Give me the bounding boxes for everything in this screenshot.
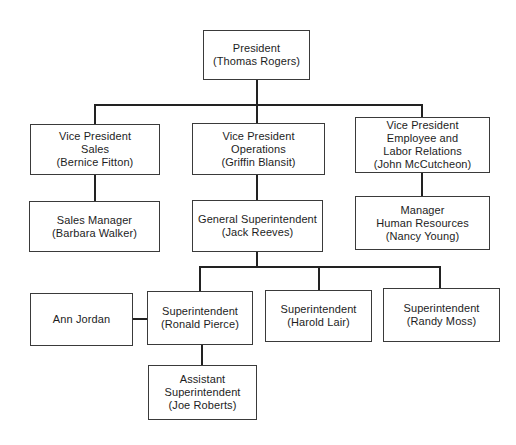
org-node-vp-sales: Vice President Sales (Bernice Fitton) (30, 124, 160, 175)
connector-bus-to-superintendent-moss (439, 266, 441, 289)
node-role-text: Superintendent (164, 386, 240, 399)
org-node-general-superintendent: General Superintendent (Jack Reeves) (192, 200, 323, 252)
connector-bus-to-superintendent-pierce (199, 266, 201, 292)
node-role-text: Vice President (222, 130, 294, 143)
node-role-text: Assistant (180, 373, 226, 386)
org-node-president: President (Thomas Rogers) (203, 30, 310, 80)
node-role-text: Vice President (386, 119, 458, 132)
node-person-text: (Randy Moss) (407, 315, 477, 328)
org-node-assistant-superintendent: Assistant Superintendent (Joe Roberts) (148, 365, 257, 420)
node-person-text: (Thomas Rogers) (213, 55, 300, 68)
node-person-text: (Bernice Fitton) (57, 156, 134, 169)
org-chart-canvas: President (Thomas Rogers) Vice President… (0, 0, 516, 445)
node-role-text: Operations (231, 143, 286, 156)
node-person-text: (Barbara Walker) (52, 227, 137, 240)
connector-bus-to-vp-employee (421, 104, 423, 118)
node-role-text: Superintendent (162, 305, 238, 318)
node-role-text: Employee and (387, 132, 459, 145)
connector-bus-to-superintendent-lair (318, 266, 320, 291)
connector-bus-to-vp-sales (94, 104, 96, 125)
node-person-text: (Griffin Blansit) (221, 156, 295, 169)
node-role-text: Vice President (59, 130, 131, 143)
org-node-superintendent-lair: Superintendent (Harold Lair) (265, 290, 372, 342)
node-role-text: Manager (400, 204, 444, 217)
node-role-text: General Superintendent (198, 213, 317, 226)
connector-president-drop (256, 80, 258, 105)
node-person-text: Ann Jordan (53, 313, 110, 326)
org-node-vp-employee-labor-relations: Vice President Employee and Labor Relati… (355, 117, 490, 173)
node-role-text: Superintendent (403, 302, 479, 315)
node-role-text: Human Resources (376, 217, 469, 230)
org-node-vp-operations: Vice President Operations (Griffin Blans… (192, 123, 325, 175)
node-person-text: (Nancy Young) (386, 230, 459, 243)
connector-superintendent-pierce-to-assistant (201, 344, 203, 366)
node-role-text: Sales (81, 143, 109, 156)
connector-ann-jordan-to-superintendent-pierce (133, 318, 148, 320)
node-role-text: President (233, 42, 280, 55)
org-node-sales-manager: Sales Manager (Barbara Walker) (29, 201, 160, 252)
node-role-text: Sales Manager (57, 214, 132, 227)
node-role-text: Labor Relations (383, 145, 462, 158)
org-node-ann-jordan: Ann Jordan (30, 293, 133, 346)
connector-bus-to-vp-operations (256, 104, 258, 124)
node-person-text: (Ronald Pierce) (161, 318, 239, 331)
node-person-text: (John McCutcheon) (374, 158, 472, 171)
connector-superintendent-bus (199, 266, 441, 268)
org-node-superintendent-moss: Superintendent (Randy Moss) (383, 288, 500, 342)
node-person-text: (Jack Reeves) (222, 226, 294, 239)
node-person-text: (Harold Lair) (287, 316, 349, 329)
connector-vp-employee-to-manager-hr (421, 173, 423, 197)
org-node-superintendent-pierce: Superintendent (Ronald Pierce) (147, 291, 253, 345)
connector-vp-operations-to-general-superintendent (256, 175, 258, 201)
connector-vp-sales-to-sales-manager (94, 175, 96, 202)
node-role-text: Superintendent (280, 303, 356, 316)
connector-vp-bus (94, 104, 423, 106)
org-node-manager-human-resources: Manager Human Resources (Nancy Young) (355, 196, 490, 250)
node-person-text: (Joe Roberts) (169, 399, 237, 412)
